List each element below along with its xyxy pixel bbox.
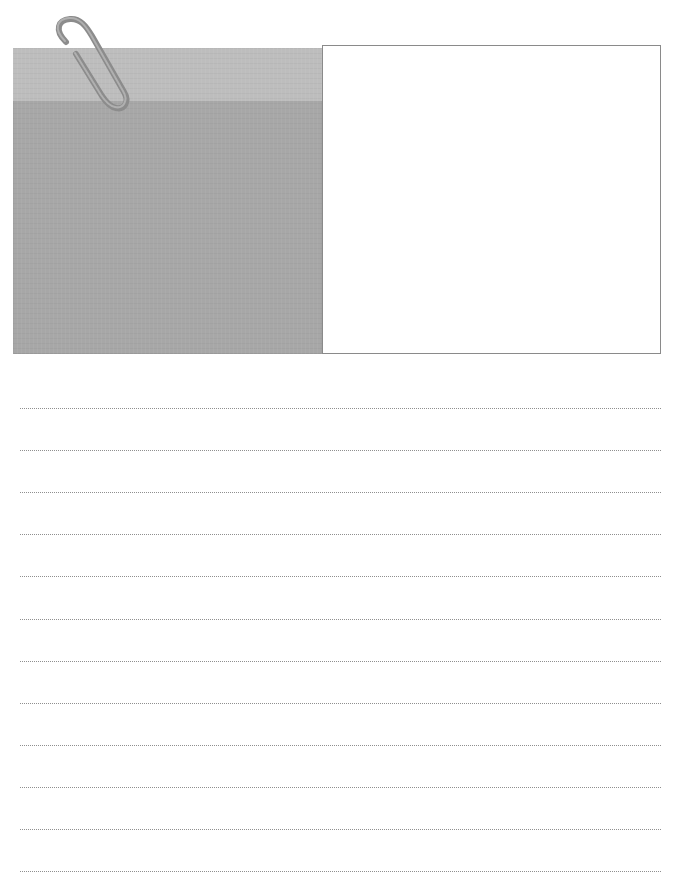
writing-line bbox=[20, 450, 661, 451]
photo-frame-box bbox=[322, 45, 661, 354]
writing-line bbox=[20, 703, 661, 704]
writing-line bbox=[20, 619, 661, 620]
writing-line bbox=[20, 576, 661, 577]
writing-line bbox=[20, 408, 661, 409]
writing-line bbox=[20, 829, 661, 830]
writing-line bbox=[20, 661, 661, 662]
writing-line bbox=[20, 871, 661, 872]
writing-line bbox=[20, 787, 661, 788]
writing-line bbox=[20, 534, 661, 535]
writing-line bbox=[20, 745, 661, 746]
paperclip-icon bbox=[40, 14, 140, 124]
writing-line bbox=[20, 492, 661, 493]
